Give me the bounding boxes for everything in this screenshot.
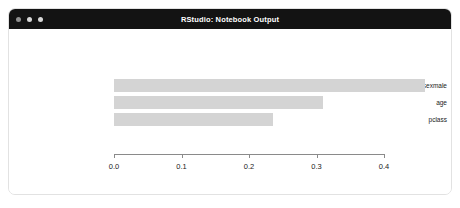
window-titlebar[interactable]: RStudio: Notebook Output	[9, 9, 451, 29]
zoom-button-icon[interactable]	[38, 17, 43, 22]
bar-row: sexmale	[9, 79, 451, 92]
bar-row: age	[9, 96, 451, 109]
bar	[114, 113, 273, 126]
bar-track	[114, 96, 451, 109]
x-axis-tick-label: 0.1	[176, 162, 186, 171]
x-axis: 0.00.10.20.30.4	[114, 154, 433, 194]
bar	[114, 79, 425, 92]
bar-track	[114, 113, 451, 126]
x-axis-tick	[384, 154, 385, 158]
bar-row: pclass	[9, 113, 451, 126]
x-axis-tick-label: 0.4	[379, 162, 389, 171]
window-title: RStudio: Notebook Output	[181, 15, 279, 24]
x-axis-tick	[317, 154, 318, 158]
bar	[114, 96, 323, 109]
minimize-button-icon[interactable]	[27, 17, 32, 22]
x-axis-tick-label: 0.2	[244, 162, 254, 171]
rstudio-notebook-window: RStudio: Notebook Output sexmaleagepclas…	[8, 8, 452, 195]
x-axis-tick	[182, 154, 183, 158]
x-axis-tick-label: 0.3	[311, 162, 321, 171]
close-button-icon[interactable]	[16, 17, 21, 22]
bar-chart-plot: sexmaleagepclass 0.00.10.20.30.4	[9, 29, 451, 194]
bar-track	[114, 79, 451, 92]
window-controls	[16, 9, 43, 29]
x-axis-tick	[249, 154, 250, 158]
x-axis-tick-label: 0.0	[109, 162, 119, 171]
x-axis-tick	[114, 154, 115, 158]
